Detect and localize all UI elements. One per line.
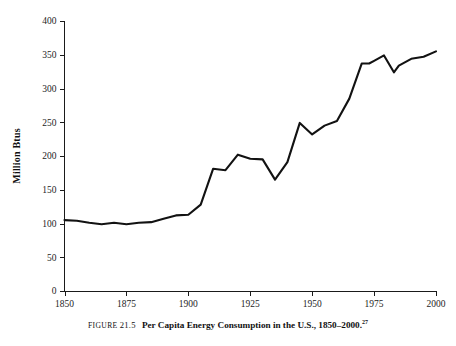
caption-title: Per Capita Energy Consumption in the U.S… [142, 320, 362, 330]
axes [65, 21, 437, 292]
y-tick-label: 400 [42, 16, 57, 26]
x-tick-label: 1950 [303, 299, 322, 309]
y-tick-label: 100 [42, 219, 57, 229]
x-tick-label: 1875 [117, 299, 136, 309]
caption-footnote-marker: 27 [362, 319, 368, 325]
data-series-line [65, 51, 437, 224]
energy-consumption-line-chart: 050100150200250300350400 185018751900192… [0, 0, 456, 346]
x-axis-ticks: 1850187519001925195019752000 [55, 291, 446, 309]
y-tick-label: 350 [42, 50, 57, 60]
x-tick-label: 1900 [179, 299, 198, 309]
y-tick-label: 50 [47, 253, 57, 263]
y-axis-title: Million Btus [11, 128, 22, 183]
y-tick-label: 300 [42, 84, 57, 94]
y-tick-label: 150 [42, 185, 57, 195]
caption-figure-number: 21.5 [120, 320, 136, 330]
x-tick-label: 1925 [241, 299, 260, 309]
caption-figure-label: FIGURE [88, 321, 118, 330]
y-axis-ticks: 050100150200250300350400 [42, 16, 64, 296]
y-tick-label: 0 [52, 286, 57, 296]
y-tick-label: 250 [42, 118, 57, 128]
y-tick-label: 200 [42, 151, 57, 161]
x-tick-label: 1850 [55, 299, 74, 309]
figure-caption: FIGURE 21.5 Per Capita Energy Consumptio… [0, 319, 456, 330]
x-tick-label: 2000 [427, 299, 446, 309]
x-tick-label: 1975 [365, 299, 384, 309]
figure-container: 050100150200250300350400 185018751900192… [0, 0, 456, 346]
